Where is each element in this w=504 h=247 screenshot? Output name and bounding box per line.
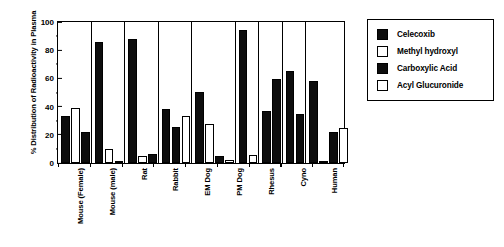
y-tick-label: 60 (45, 74, 58, 83)
bar (249, 155, 258, 163)
x-tick-mark (217, 163, 218, 167)
legend-swatch (377, 80, 388, 91)
bar (182, 116, 191, 163)
legend-label: Celecoxib (397, 30, 435, 39)
legend-swatch (377, 63, 388, 74)
x-tick-label: Human (330, 168, 339, 193)
y-tick-label: 80 (45, 46, 58, 55)
bar (239, 30, 248, 163)
bar-group (58, 22, 92, 163)
bar (138, 156, 147, 163)
x-tick-mark (343, 163, 344, 167)
bar (329, 132, 338, 163)
bar-group (236, 22, 260, 163)
x-tick-label: PM Dog (235, 168, 244, 196)
bar-group (125, 22, 159, 163)
bar (309, 81, 318, 163)
bar-group (92, 22, 126, 163)
bar-chart-figure: % Distribution of Radioactivity in Plasm… (0, 0, 504, 247)
bar (225, 160, 234, 163)
x-tick-mark (90, 163, 91, 167)
legend-item: Carboxylic Acid (368, 60, 493, 77)
bar (172, 127, 181, 163)
legend-swatch (377, 46, 388, 57)
x-tick-mark (122, 163, 123, 167)
bar-group (192, 22, 236, 163)
chart-legend: CelecoxibMethyl hydroxylCarboxylic AcidA… (367, 19, 494, 101)
x-tick-mark (280, 163, 281, 167)
bar (71, 108, 80, 163)
bar-groups (58, 22, 344, 163)
bar (272, 79, 281, 163)
bar (162, 109, 171, 163)
x-tick-label: EM Dog (203, 168, 212, 196)
bar (339, 128, 348, 163)
x-tick-mark (185, 163, 186, 167)
y-tick-label: 40 (45, 102, 58, 111)
x-tick-label: Cyno (299, 168, 308, 187)
bar (81, 132, 90, 163)
bar (105, 149, 114, 163)
plot-area: 020406080100 (57, 21, 345, 164)
bar (195, 92, 204, 163)
x-tick-label: Mouse (male) (108, 168, 117, 215)
legend-item: Methyl hydroxyl (368, 43, 493, 60)
x-tick-mark (249, 163, 250, 167)
bar (319, 161, 328, 163)
bar (296, 114, 305, 163)
bar (205, 124, 214, 163)
x-tick-label: Rhesus (267, 168, 276, 195)
x-tick-mark (312, 163, 313, 167)
bar-group (306, 22, 349, 163)
x-tick-label: Rat (140, 168, 149, 180)
x-tick-label: Mouse (Female) (76, 168, 85, 224)
bar (61, 116, 70, 163)
legend-item: Celecoxib (368, 26, 493, 43)
bar-group (159, 22, 193, 163)
legend-item: Acyl Glucuronide (368, 77, 493, 94)
bar (262, 111, 271, 163)
x-tick-label: Rabbit (171, 168, 180, 191)
x-tick-mark (153, 163, 154, 167)
bar-group (283, 22, 307, 163)
y-tick-label: 20 (45, 130, 58, 139)
bar (286, 71, 295, 163)
bar (148, 154, 157, 163)
legend-swatch (377, 29, 388, 40)
y-tick-label: 0 (50, 159, 58, 168)
y-axis-title: % Distribution of Radioactivity in Plasm… (29, 0, 38, 168)
bar (95, 42, 104, 163)
bar (215, 156, 224, 163)
legend-label: Carboxylic Acid (397, 64, 457, 73)
y-tick-label: 100 (41, 18, 58, 27)
legend-label: Methyl hydroxyl (397, 47, 458, 56)
bar-group (259, 22, 283, 163)
bar (128, 39, 137, 163)
legend-label: Acyl Glucuronide (397, 81, 463, 90)
x-tick-mark (58, 163, 59, 167)
